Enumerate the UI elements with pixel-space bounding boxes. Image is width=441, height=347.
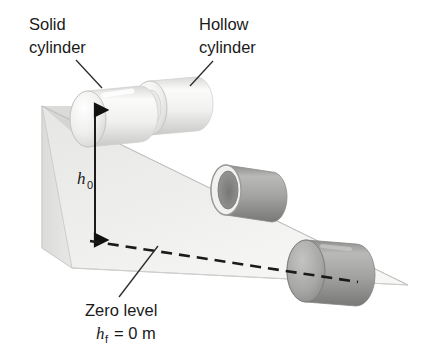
initial-height-subscript: 0 <box>87 179 93 191</box>
solid-cylinder-top-face <box>70 91 106 147</box>
hollow-cylinder-mid-bore <box>218 171 238 209</box>
physics-figure: Solid cylinder Hollow cylinder h 0 Zero … <box>0 0 441 347</box>
solid-cylinder-label-line1: Solid <box>29 15 66 33</box>
zero-level-label: Zero level <box>85 301 157 319</box>
final-height-value: = 0 m <box>114 324 156 342</box>
solid-cylinder-top <box>70 86 158 147</box>
hollow-cylinder-label-line1: Hollow <box>199 15 249 33</box>
final-height-equation: h f = 0 m <box>96 324 156 345</box>
solid-cylinder-leader-line <box>76 60 102 88</box>
solid-cylinder-label-line2: cylinder <box>29 38 86 56</box>
incline-diagram: Solid cylinder Hollow cylinder h 0 Zero … <box>0 0 441 347</box>
hollow-cylinder-label-line2: cylinder <box>199 38 256 56</box>
solid-cylinder-bottom <box>287 240 375 306</box>
final-height-subscript: f <box>105 333 109 345</box>
final-height-symbol: h <box>96 324 105 343</box>
hollow-cylinder-mid <box>211 165 287 222</box>
initial-height-symbol: h <box>77 169 86 188</box>
